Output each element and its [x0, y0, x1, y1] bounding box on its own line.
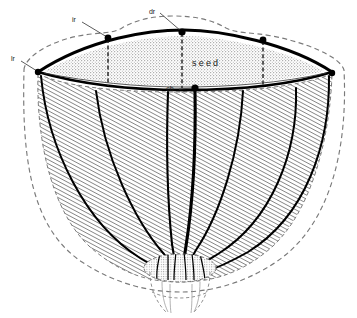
label-lr: lr — [11, 55, 16, 62]
marker-dot-cb — [191, 84, 198, 91]
marker-dot-right — [260, 37, 267, 44]
botanical-figure: ir dr lr cb seed — [0, 0, 357, 318]
label-dr: dr — [149, 8, 156, 15]
figure-canvas: ir dr lr cb seed — [0, 0, 357, 318]
label-cb: cb — [166, 85, 174, 92]
marker-dot-dr — [178, 28, 185, 35]
marker-dot-ir — [105, 35, 112, 42]
marker-dot-right-vertex — [329, 70, 335, 76]
label-seed: seed — [192, 58, 220, 68]
label-ir: ir — [72, 16, 77, 23]
marker-dot-lr — [35, 69, 41, 75]
